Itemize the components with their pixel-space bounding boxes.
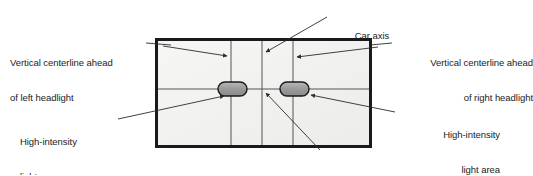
label-left-centerline-line2: of left headlight <box>10 92 145 104</box>
label-left-high-intensity-line1: High-intensity <box>20 136 115 148</box>
label-right-high-intensity-line1: High-intensity <box>400 129 500 141</box>
diagram-root: Car axis Vertical centerline ahead of le… <box>0 0 533 175</box>
label-height-of-light-centers-line1: Height of light centers <box>325 173 485 175</box>
label-right-centerline-line2: of right headlight <box>397 92 533 104</box>
right-high-intensity-spot <box>280 82 309 96</box>
label-left-high-intensity-line2: light area <box>20 171 115 176</box>
left-high-intensity-spot <box>218 82 247 96</box>
label-height-of-light-centers: Height of light centers <box>325 150 485 175</box>
label-left-high-intensity: High-intensity light area <box>20 113 115 175</box>
label-right-centerline-line1: Vertical centerline ahead <box>397 57 533 69</box>
label-left-centerline-line1: Vertical centerline ahead <box>10 57 145 69</box>
